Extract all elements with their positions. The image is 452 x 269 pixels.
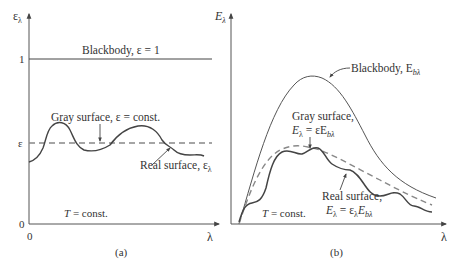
a-y-axis-label: ελ [13, 9, 22, 25]
b-real-label: Real surface, [322, 190, 382, 203]
b-real-pointer [340, 174, 346, 190]
a-tick-eps: ε [18, 137, 23, 149]
a-tick-zero-y: 0 [19, 218, 25, 230]
a-tick-one: 1 [19, 53, 25, 65]
b-blackbody-label: Blackbody, Ebλ [351, 62, 421, 77]
emissivity-diagram: ελ 1 ε 0 0 λ Blackbody, ε = 1 Gray surfa… [0, 0, 452, 269]
b-gray-label: Gray surface, [292, 110, 354, 123]
b-blackbody-pointer [330, 68, 350, 77]
b-caption: (b) [330, 246, 343, 259]
a-real-label: Real surface, ελ [140, 159, 212, 174]
a-blackbody-label: Blackbody, ε = 1 [82, 44, 160, 57]
a-temp-label: T = const. [64, 207, 108, 219]
a-x-axis-label: λ [207, 230, 213, 244]
a-real-surface-curve [29, 123, 204, 162]
a-gray-label: Gray surface, ε = const. [51, 111, 160, 124]
b-temp-label: T = const. [262, 207, 306, 219]
panel-b: Eλ λ Blackbody, Ebλ Gray surface, Eλ = ε… [214, 9, 447, 259]
b-real-equation: Eλ = ελEbλ [325, 204, 373, 219]
b-gray-equation: Eλ = εEbλ [291, 124, 335, 139]
panel-a: ελ 1 ε 0 0 λ Blackbody, ε = 1 Gray surfa… [13, 9, 219, 259]
a-caption: (a) [115, 246, 128, 259]
b-y-axis-label: Eλ [214, 9, 226, 25]
b-x-axis-label: λ [441, 230, 447, 244]
a-tick-zero-x: 0 [27, 230, 33, 242]
